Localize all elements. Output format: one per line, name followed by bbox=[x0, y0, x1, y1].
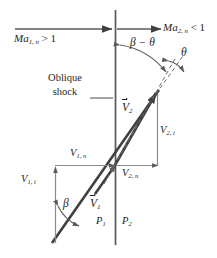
v2n-sub: 2, n bbox=[128, 172, 138, 179]
label-v1t: V1, t bbox=[21, 174, 36, 185]
v2t-sub: 2, t bbox=[166, 129, 174, 136]
beta-minus-theta-arc bbox=[120, 45, 166, 72]
label-p2: P2 bbox=[122, 216, 132, 227]
v1n-sub: 1, n bbox=[76, 152, 86, 159]
ma1n-base: Ma bbox=[14, 32, 29, 44]
oblique-shock-line-1: Oblique bbox=[48, 72, 82, 83]
label-v2-vector: V2 bbox=[122, 102, 133, 115]
ma1n-sub: 1, n bbox=[29, 38, 39, 45]
label-theta: θ bbox=[181, 47, 187, 59]
label-oblique-shock: Oblique shock bbox=[41, 71, 89, 99]
p1-sub: 1 bbox=[102, 220, 105, 227]
oblique-shock-line-2: shock bbox=[53, 86, 78, 97]
ma1n-rel: > 1 bbox=[42, 32, 56, 44]
label-v1-vector: V1 bbox=[90, 198, 101, 211]
label-ma2n: Ma2, n < 1 bbox=[163, 22, 205, 35]
label-v2n: V2, n bbox=[122, 168, 138, 179]
v2-vector-sub: 2 bbox=[129, 107, 133, 115]
p2-sub: 2 bbox=[128, 220, 131, 227]
v1t-sub: 1, t bbox=[27, 178, 35, 185]
v2-vector-base: V bbox=[122, 101, 129, 113]
label-v1n: V1, n bbox=[70, 148, 86, 159]
v1-vector-base: V bbox=[90, 197, 97, 209]
label-ma1n: Ma1, n > 1 bbox=[14, 33, 56, 46]
ma2n-base: Ma bbox=[163, 21, 178, 33]
label-p1: P1 bbox=[96, 216, 106, 227]
label-beta: β bbox=[63, 198, 69, 210]
label-v2t: V2, t bbox=[160, 125, 175, 136]
ma2n-rel: < 1 bbox=[191, 21, 205, 33]
ma2n-sub: 2, n bbox=[178, 27, 188, 34]
v1-vector-sub: 1 bbox=[97, 203, 101, 211]
label-beta-minus-theta: β − θ bbox=[130, 37, 155, 49]
